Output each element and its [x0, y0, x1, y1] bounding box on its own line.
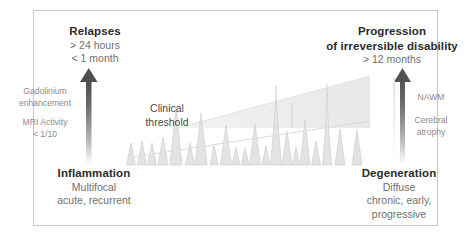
mri-activity-caption: MRI Activity < 1/10 [8, 117, 82, 140]
clinical-threshold-line2: threshold [136, 116, 198, 130]
diagram-canvas: Relapses > 24 hours < 1 month Gadolinium… [0, 0, 470, 251]
panel-dividers [394, 78, 395, 164]
mri-activity-caption-line1: MRI Activity [8, 117, 82, 129]
progression-title: Progression [316, 24, 468, 39]
degeneration-line3: progressive [338, 208, 460, 221]
inflammation-block: Inflammation Multifocal acute, recurrent [26, 166, 162, 208]
relapses-duration-min: > 24 hours [36, 39, 154, 52]
degeneration-title: Degeneration [338, 166, 460, 181]
up-arrow-inflammation [80, 68, 98, 164]
relapses-duration-max: < 1 month [36, 52, 154, 65]
gadolinium-caption-line1: Gadolinium [8, 86, 82, 98]
degeneration-line1: Diffuse [338, 181, 460, 194]
mri-activity-caption-line2: < 1/10 [8, 129, 82, 141]
cerebral-atrophy-caption-line2: atrophy [398, 127, 464, 139]
degeneration-block: Degeneration Diffuse chronic, early, pro… [338, 166, 460, 221]
clinical-threshold-label: Clinical threshold [136, 102, 198, 129]
progression-heading-block: Progression of irreversible disability >… [316, 24, 468, 67]
relapses-heading-block: Relapses > 24 hours < 1 month [36, 24, 154, 66]
nawm-caption-line1: NAWM [398, 92, 464, 104]
inflammation-line1: Multifocal [26, 181, 162, 194]
gadolinium-caption: Gadolinium enhancement [8, 86, 82, 109]
inflammation-title: Inflammation [26, 166, 162, 181]
inflammation-line2: acute, recurrent [26, 194, 162, 207]
progression-duration: > 12 months [316, 53, 468, 66]
cerebral-atrophy-caption: Cerebral atrophy [398, 115, 464, 138]
clinical-threshold-line1: Clinical [136, 102, 198, 116]
nawm-caption: NAWM [398, 92, 464, 104]
degeneration-line2: chronic, early, [338, 194, 460, 207]
cerebral-atrophy-caption-line1: Cerebral [398, 115, 464, 127]
gadolinium-caption-line2: enhancement [8, 98, 82, 110]
progression-subtitle: of irreversible disability [316, 39, 468, 54]
relapses-title: Relapses [36, 24, 154, 39]
